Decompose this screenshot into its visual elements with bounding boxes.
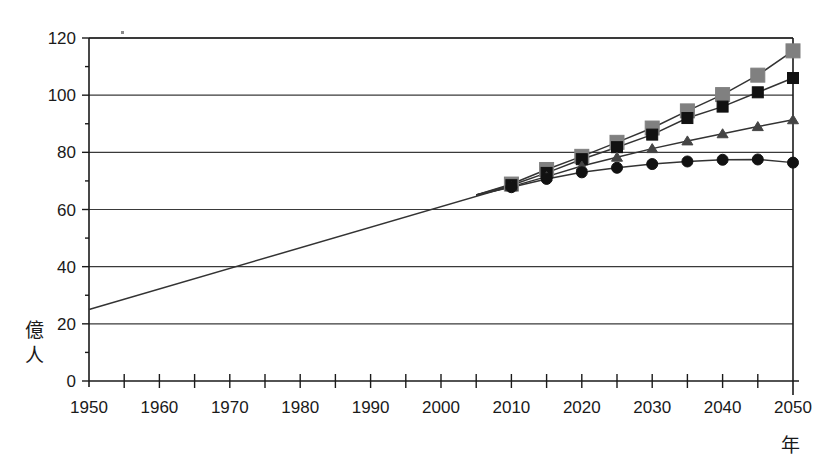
data-point-black-circle <box>752 154 763 165</box>
y-tick-label: 120 <box>48 29 76 48</box>
data-point-gray-square <box>786 44 800 58</box>
x-tick-label: 1960 <box>140 398 178 417</box>
data-point-black-circle <box>541 173 552 184</box>
data-point-black-square <box>752 87 763 98</box>
x-tick-label: 2010 <box>492 398 530 417</box>
x-tick-label: 1950 <box>70 398 108 417</box>
x-axis-label: 年 <box>781 434 800 456</box>
data-point-black-circle <box>788 157 799 168</box>
data-point-gray-square <box>751 68 765 82</box>
x-tick-label: 1990 <box>352 398 390 417</box>
data-point-black-square <box>717 101 728 112</box>
y-axis-label-char-1: 億 <box>25 319 44 341</box>
stray-ink-speck <box>121 31 124 34</box>
population-projection-line-chart: 1950196019701980199020002010202020302040… <box>0 0 830 476</box>
x-tick-label: 2050 <box>774 398 812 417</box>
x-tick-label: 1970 <box>211 398 249 417</box>
data-point-black-circle <box>612 162 623 173</box>
data-point-black-circle <box>576 167 587 178</box>
data-point-black-square <box>647 129 658 140</box>
data-point-black-circle <box>647 159 658 170</box>
data-point-black-circle <box>682 156 693 167</box>
x-tick-label: 2030 <box>633 398 671 417</box>
y-tick-label: 100 <box>48 86 76 105</box>
y-tick-label: 20 <box>57 315 76 334</box>
data-point-black-square <box>788 73 799 84</box>
data-point-black-circle <box>506 182 517 193</box>
x-tick-label: 1980 <box>281 398 319 417</box>
x-tick-label: 2040 <box>704 398 742 417</box>
y-tick-label: 40 <box>57 258 76 277</box>
data-point-black-square <box>682 113 693 124</box>
chart-container: 1950196019701980199020002010202020302040… <box>0 0 830 476</box>
y-tick-label: 60 <box>57 201 76 220</box>
data-point-black-square <box>612 142 623 153</box>
y-axis-label-char-2: 人 <box>25 344 44 366</box>
x-tick-label: 2000 <box>422 398 460 417</box>
y-tick-label: 0 <box>67 372 76 391</box>
data-point-gray-square <box>716 88 730 102</box>
y-tick-label: 80 <box>57 143 76 162</box>
x-tick-label: 2020 <box>563 398 601 417</box>
data-point-black-circle <box>717 154 728 165</box>
